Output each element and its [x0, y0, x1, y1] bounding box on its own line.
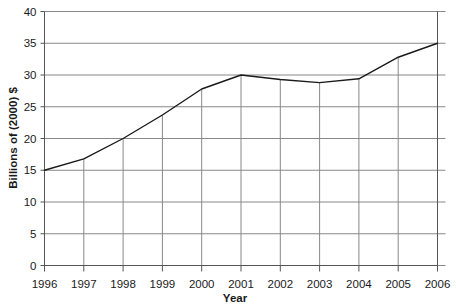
y-axis-title: Billions of (2000) $: [7, 87, 19, 189]
y-axis-ticks: [41, 12, 45, 266]
x-tick-label-2002: 2002: [268, 278, 294, 290]
line-chart: 0510152025303540 19961997199819992000200…: [0, 0, 457, 308]
x-tick-label-1999: 1999: [150, 278, 176, 290]
y-tick-label-40: 40: [24, 6, 37, 18]
horizontal-gridlines: [45, 12, 446, 266]
x-tick-label-2005: 2005: [385, 278, 411, 290]
x-tick-label-1998: 1998: [110, 278, 136, 290]
x-tick-label-2000: 2000: [189, 278, 215, 290]
y-tick-label-15: 15: [24, 164, 37, 176]
y-tick-label-30: 30: [24, 69, 37, 81]
y-tick-label-10: 10: [24, 196, 37, 208]
y-tick-label-5: 5: [30, 228, 36, 240]
x-axis-ticks: [45, 266, 438, 272]
y-axis-tick-labels: 0510152025303540: [24, 6, 37, 272]
y-tick-label-25: 25: [24, 101, 37, 113]
x-tick-label-2001: 2001: [228, 278, 254, 290]
x-axis-title: Year: [223, 292, 248, 304]
x-tick-label-2004: 2004: [346, 278, 372, 290]
chart-canvas: 0510152025303540 19961997199819992000200…: [0, 0, 457, 308]
x-axis-tick-labels: 1996199719981999200020012002200320042005…: [32, 278, 451, 290]
x-tick-label-2003: 2003: [307, 278, 333, 290]
x-tick-label-2006: 2006: [425, 278, 451, 290]
x-tick-label-1997: 1997: [71, 278, 97, 290]
y-tick-label-35: 35: [24, 37, 37, 49]
y-tick-label-20: 20: [24, 133, 37, 145]
x-tick-label-1996: 1996: [32, 278, 58, 290]
y-tick-label-0: 0: [30, 260, 36, 272]
